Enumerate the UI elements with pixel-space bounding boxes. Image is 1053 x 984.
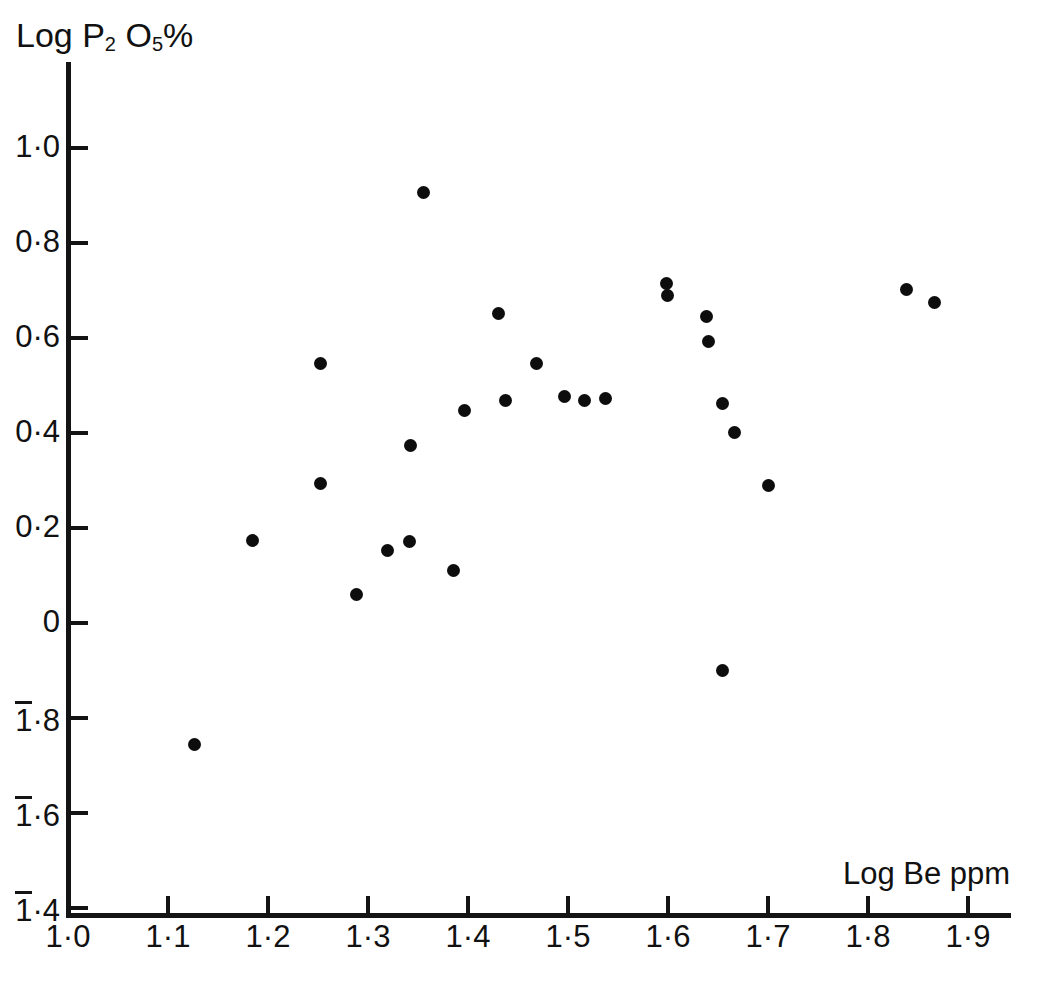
data-point [762, 479, 775, 492]
data-point [314, 477, 327, 490]
data-point [447, 564, 460, 577]
data-point [403, 535, 416, 548]
data-point [246, 534, 259, 547]
plot-area [0, 0, 1053, 984]
data-point [716, 397, 729, 410]
data-point [578, 394, 591, 407]
data-point [188, 738, 201, 751]
scatter-plot-figure: Log P2 O5% Log Be ppm 1·00·80·60·40·201·… [0, 0, 1053, 984]
data-point [492, 307, 505, 320]
data-point [928, 296, 941, 309]
data-point [900, 283, 913, 296]
data-point [660, 277, 673, 290]
data-point [530, 357, 543, 370]
data-point [661, 289, 674, 302]
data-point [599, 392, 612, 405]
data-point [558, 390, 571, 403]
data-point [728, 426, 741, 439]
data-point [381, 544, 394, 557]
data-point [417, 186, 430, 199]
data-point [499, 394, 512, 407]
data-point [716, 664, 729, 677]
data-point [702, 335, 715, 348]
data-point [458, 404, 471, 417]
data-point [404, 439, 417, 452]
data-point [350, 588, 363, 601]
data-point [700, 310, 713, 323]
data-point [314, 357, 327, 370]
